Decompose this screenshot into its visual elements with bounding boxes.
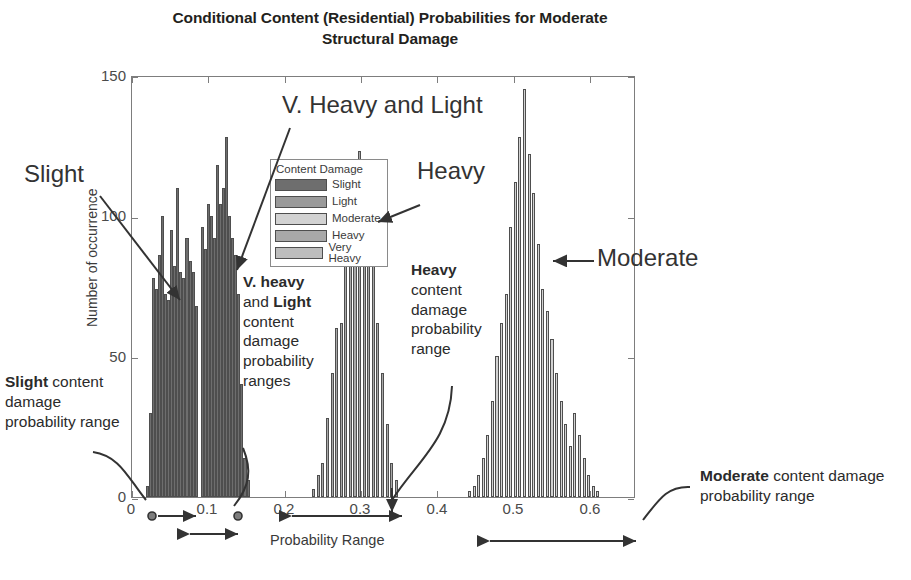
histogram-bar — [335, 328, 338, 497]
histogram-bar — [509, 227, 512, 497]
histogram-bar — [247, 480, 250, 497]
y-tick-150: 150 — [84, 67, 126, 84]
histogram-bar — [372, 261, 375, 497]
histogram-bar — [495, 356, 498, 497]
legend-item-light: Light — [275, 194, 383, 210]
histogram-bar — [583, 458, 586, 497]
annotation-vheavy-rest: content damage probability ranges — [243, 313, 314, 389]
histogram-bar — [518, 137, 521, 497]
histogram-bar — [340, 323, 343, 497]
legend-swatch-moderate — [275, 213, 327, 225]
histogram-bar — [482, 458, 485, 497]
histogram-bar — [541, 289, 544, 497]
annotation-heavy-range: Heavy content damage probability range — [411, 260, 495, 359]
callout-moderate: Moderate — [597, 244, 698, 272]
callout-heavy: Heavy — [417, 157, 485, 185]
legend-swatch-very-heavy — [275, 247, 323, 259]
histogram-bar — [523, 89, 526, 497]
histogram-bar — [381, 373, 384, 497]
histogram-bar — [596, 491, 599, 497]
chart-title: Conditional Content (Residential) Probab… — [155, 8, 625, 50]
callout-slight: Slight — [24, 160, 84, 188]
histogram-bar — [376, 323, 379, 497]
histogram-bar — [344, 261, 347, 497]
histogram-bar — [500, 323, 503, 497]
annotation-heavy-rest: content damage probability range — [411, 281, 482, 357]
histogram-bar — [473, 486, 476, 497]
legend-item-very-heavy: Very Heavy — [275, 245, 383, 261]
histogram-bar — [564, 424, 567, 497]
histogram-bar — [514, 182, 517, 497]
callout-v-heavy-and-light: V. Heavy and Light — [282, 91, 483, 119]
y-tick-mark — [628, 499, 634, 500]
histogram-bar — [587, 475, 590, 498]
histogram-bar — [486, 435, 489, 497]
legend: Content Damage Slight Light Moderate Hea… — [270, 159, 388, 267]
annotation-moderate-range: Moderate content damage probability rang… — [700, 466, 900, 506]
x-tick-02: 0.2 — [261, 500, 307, 517]
histogram-bar — [550, 339, 553, 497]
histogram-bar — [390, 463, 393, 497]
curve-moderate-range — [643, 487, 690, 520]
x-tick-05: 0.5 — [490, 500, 536, 517]
histogram-bar — [569, 446, 572, 497]
histogram-bar — [477, 475, 480, 498]
annotation-slight-bold: Slight — [5, 373, 48, 390]
legend-item-slight: Slight — [275, 177, 383, 193]
histogram-bar — [592, 486, 595, 497]
annotation-vheavy-mid: and — [243, 293, 273, 310]
histogram-bar — [321, 463, 324, 497]
x-axis-tick-labels: 0 0.1 0.2 0.3 0.4 0.5 0.6 — [131, 500, 635, 526]
histogram-bar — [195, 306, 198, 497]
histogram-bar — [528, 154, 531, 497]
legend-swatch-slight — [275, 179, 327, 191]
x-axis-title: Probability Range — [270, 532, 384, 548]
histogram-bar — [560, 401, 563, 497]
legend-label-light: Light — [332, 196, 357, 208]
annotation-moderate-bold: Moderate — [700, 467, 769, 484]
histogram-bar — [331, 373, 334, 497]
x-tick-03: 0.3 — [337, 500, 383, 517]
legend-item-moderate: Moderate — [275, 211, 383, 227]
legend-title: Content Damage — [276, 163, 383, 175]
histogram-bar — [326, 418, 329, 497]
histogram-bar — [546, 311, 549, 497]
histogram-bars — [132, 77, 634, 497]
x-tick-01: 0.1 — [184, 500, 230, 517]
histogram-bar — [537, 244, 540, 497]
annotation-heavy-bold: Heavy — [411, 261, 457, 278]
legend-label-slight: Slight — [332, 179, 361, 191]
x-tick-06: 0.6 — [567, 500, 613, 517]
histogram-bar — [555, 373, 558, 497]
annotation-vheavy-light-range: V. heavy and Light content damage probab… — [243, 272, 325, 391]
histogram-bar — [468, 491, 471, 497]
x-tick-0: 0 — [108, 500, 154, 517]
histogram-bar — [532, 193, 535, 497]
x-tick-04: 0.4 — [414, 500, 460, 517]
figure: Conditional Content (Residential) Probab… — [0, 0, 911, 580]
annotation-slight-range: Slight content damage probability range — [5, 372, 127, 431]
legend-swatch-heavy — [275, 230, 327, 242]
legend-swatch-light — [275, 196, 327, 208]
histogram-bar — [317, 475, 320, 498]
annotation-vheavy-bold: V. heavy — [243, 273, 304, 290]
histogram-bar — [505, 294, 508, 497]
y-axis-title: Number of occurrence — [84, 188, 100, 327]
histogram-bar — [573, 413, 576, 497]
legend-label-very-heavy: Very Heavy — [328, 242, 383, 265]
histogram-bar — [578, 435, 581, 497]
histogram-bar — [395, 480, 398, 497]
histogram-bar — [386, 424, 389, 497]
y-tick-50: 50 — [84, 348, 126, 365]
legend-label-moderate: Moderate — [332, 213, 381, 225]
y-tick-mark — [132, 499, 138, 500]
plot-area: Number of occurrence Content Damage Slig… — [131, 76, 635, 498]
annotation-light-bold: Light — [273, 293, 311, 310]
histogram-bar — [312, 489, 315, 497]
histogram-bar — [491, 401, 494, 497]
